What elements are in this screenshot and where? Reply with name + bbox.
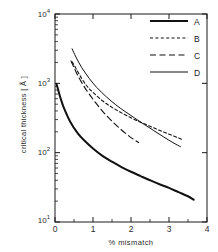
figure-canvas: critical thickness [ Å ] 104 103 102 101…: [0, 0, 218, 252]
curve-c: [71, 61, 139, 143]
data-curves: [57, 49, 194, 200]
plot-area: [0, 0, 218, 252]
curve-b: [72, 62, 182, 140]
curve-a: [57, 84, 194, 200]
legend-sample-lines: [150, 21, 188, 72]
